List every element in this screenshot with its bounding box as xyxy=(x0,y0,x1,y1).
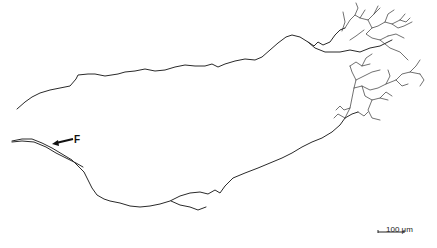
upper-arbor xyxy=(342,3,412,60)
scale-bar-label: 100 μm xyxy=(386,225,413,234)
lower-side-branch xyxy=(171,201,206,210)
lower-axon-trace xyxy=(12,112,358,207)
upper-axon-trace xyxy=(17,28,345,109)
lower-arbor xyxy=(334,54,424,120)
neuron-tracing-figure xyxy=(0,0,437,248)
upper-branch-trace xyxy=(308,40,392,52)
annotation-label-F: F xyxy=(74,134,80,145)
fiber-F-parallel xyxy=(12,141,83,167)
arrow-icon xyxy=(52,139,73,146)
